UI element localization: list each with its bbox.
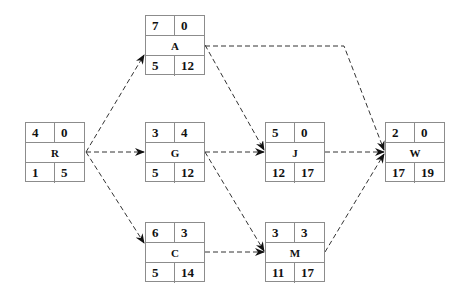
- node-g: 34 G 512: [145, 122, 205, 182]
- edge-m-w: [325, 154, 384, 252]
- edge-g-m: [205, 152, 264, 251]
- node-g-top-left: 3: [146, 123, 175, 142]
- node-r-top-left: 4: [26, 123, 55, 142]
- node-r-bottom-right: 5: [55, 163, 84, 183]
- node-g-label: G: [171, 147, 180, 159]
- node-w-top-right: 0: [415, 123, 444, 142]
- node-w: 20 W 1719: [385, 122, 445, 182]
- edge-a-j: [205, 45, 264, 150]
- node-j: 50 J 1217: [265, 122, 325, 182]
- node-m-top-right: 3: [295, 223, 324, 242]
- edge-r-c: [86, 152, 144, 243]
- node-a: 70 A 512: [145, 15, 205, 75]
- node-r-top-right: 0: [55, 123, 84, 142]
- node-m-top-left: 3: [266, 223, 295, 242]
- node-c-top-right: 3: [175, 223, 204, 242]
- node-r-label: R: [51, 147, 59, 159]
- node-m-bottom-left: 11: [266, 263, 295, 283]
- node-w-bottom-right: 19: [415, 163, 444, 183]
- node-g-bottom-right: 12: [175, 163, 204, 183]
- node-a-bottom-left: 5: [146, 56, 175, 76]
- node-j-top-right: 0: [295, 123, 324, 142]
- node-j-bottom-right: 17: [295, 163, 324, 183]
- node-m-bottom-right: 17: [295, 263, 324, 283]
- node-a-label: A: [171, 40, 179, 52]
- node-c: 63 C 514: [145, 222, 205, 282]
- node-a-top-left: 7: [146, 16, 175, 35]
- node-r: 40 R 15: [25, 122, 85, 182]
- node-a-bottom-right: 12: [175, 56, 204, 76]
- node-r-bottom-left: 1: [26, 163, 55, 183]
- node-g-top-right: 4: [175, 123, 204, 142]
- node-j-bottom-left: 12: [266, 163, 295, 183]
- node-g-bottom-left: 5: [146, 163, 175, 183]
- node-c-label: C: [171, 247, 179, 259]
- node-a-top-right: 0: [175, 16, 204, 35]
- node-j-label: J: [292, 147, 298, 159]
- node-c-top-left: 6: [146, 223, 175, 242]
- node-m: 33 M 1117: [265, 222, 325, 282]
- node-w-top-left: 2: [386, 123, 415, 142]
- node-w-bottom-left: 17: [386, 163, 415, 183]
- node-c-bottom-right: 14: [175, 263, 204, 283]
- node-j-top-left: 5: [266, 123, 295, 142]
- node-w-label: W: [410, 147, 421, 159]
- node-c-bottom-left: 5: [146, 263, 175, 283]
- edge-r-a: [86, 55, 144, 152]
- node-m-label: M: [290, 247, 300, 259]
